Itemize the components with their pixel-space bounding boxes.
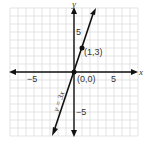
y-tick-pos5: 5 (76, 27, 81, 37)
x-tick-pos5: 5 (111, 74, 116, 84)
y-tick-neg5: −5 (76, 107, 86, 117)
x-tick-neg5: −5 (27, 74, 37, 84)
point-label-1-3: (1,3) (84, 47, 103, 57)
point-label-origin: (0,0) (77, 74, 96, 84)
x-axis-right-arrow-icon (131, 69, 138, 75)
line-up-arrow-icon (90, 8, 96, 15)
x-axis-label: x (138, 67, 143, 77)
coordinate-plane: x y −5 5 5 −5 (1,3) (0,0) y = 3x (0, 0, 155, 150)
y-axis-label: y (71, 0, 76, 9)
point-origin (72, 70, 77, 75)
